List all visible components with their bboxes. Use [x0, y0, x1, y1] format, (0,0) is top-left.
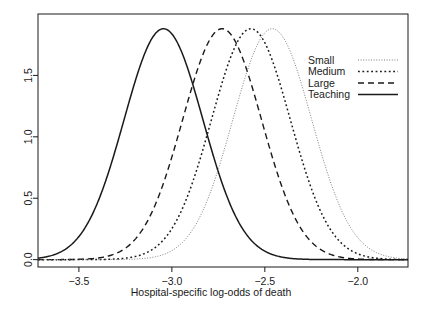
density-plot-figure: −3.5−3.0−2.5−2.0 0.00.51.01.5 Hospital-s… — [0, 0, 423, 314]
y-tick-label: 1.0 — [22, 129, 34, 144]
legend-label-medium: Medium — [308, 65, 346, 77]
x-axis-title: Hospital-specific log-odds of death — [131, 286, 292, 298]
legend-label-teaching: Teaching — [308, 88, 350, 100]
x-tick-label: −3.5 — [69, 275, 90, 287]
legend-label-small: Small — [308, 54, 334, 66]
plot-canvas: −3.5−3.0−2.5−2.0 0.00.51.01.5 Hospital-s… — [0, 0, 423, 314]
y-tick-label: 0.0 — [22, 252, 34, 267]
legend-label-large: Large — [308, 77, 335, 89]
y-tick-label: 1.5 — [22, 68, 34, 83]
x-tick-label: −2.0 — [347, 275, 368, 287]
y-tick-label: 0.5 — [22, 191, 34, 206]
